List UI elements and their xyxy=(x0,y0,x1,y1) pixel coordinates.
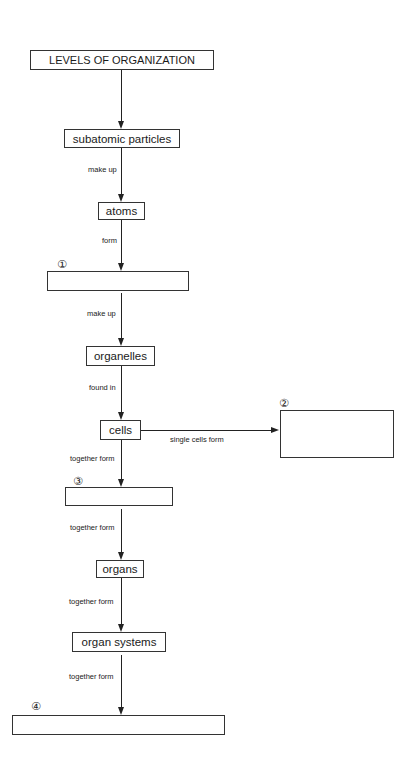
arrow-down-icon xyxy=(118,707,124,715)
node-label: organelles xyxy=(94,350,147,362)
edge-label: found in xyxy=(89,383,116,392)
node-label: cells xyxy=(109,424,132,436)
connector-line xyxy=(121,655,122,708)
arrow-right-icon xyxy=(271,427,279,433)
edge-label: make up xyxy=(88,165,117,174)
answer-box-3[interactable] xyxy=(65,487,173,506)
answer-number-3: ③ xyxy=(73,476,83,487)
arrow-down-icon xyxy=(118,194,124,202)
node-label: organ systems xyxy=(82,636,157,648)
connector-line xyxy=(121,220,122,264)
arrow-down-icon xyxy=(118,338,124,346)
node-organelles: organelles xyxy=(86,346,155,366)
node-label: atoms xyxy=(106,205,137,217)
answer-number-4: ④ xyxy=(31,701,41,712)
node-label: organs xyxy=(102,563,137,575)
node-subatomic-particles: subatomic particles xyxy=(64,129,180,148)
edge-label: together form xyxy=(70,523,115,532)
answer-box-1[interactable] xyxy=(47,271,189,291)
answer-number-2: ② xyxy=(279,398,289,409)
answer-box-4[interactable] xyxy=(12,715,225,735)
connector-line xyxy=(121,148,122,195)
connector-line xyxy=(121,578,122,625)
edge-label: make up xyxy=(87,309,116,318)
edge-label: single cells form xyxy=(170,435,224,444)
connector-line xyxy=(121,366,122,413)
arrow-down-icon xyxy=(118,121,124,129)
node-label: subatomic particles xyxy=(73,133,171,145)
arrow-down-icon xyxy=(118,624,124,632)
edge-label: together form xyxy=(69,672,114,681)
answer-box-2[interactable] xyxy=(280,410,394,458)
answer-number-1: ① xyxy=(57,259,67,270)
node-organ-systems: organ systems xyxy=(72,632,166,652)
title-text: LEVELS OF ORGANIZATION xyxy=(49,54,195,66)
node-atoms: atoms xyxy=(98,202,145,220)
edge-label: together form xyxy=(69,597,114,606)
arrow-down-icon xyxy=(118,412,124,420)
title-box: LEVELS OF ORGANIZATION xyxy=(30,50,214,70)
arrow-down-icon xyxy=(118,479,124,487)
connector-line xyxy=(141,430,272,431)
connector-line xyxy=(121,509,122,553)
node-organs: organs xyxy=(96,560,144,578)
connector-line xyxy=(121,440,122,480)
node-cells: cells xyxy=(100,420,141,440)
connector-line xyxy=(121,293,122,339)
edge-label: form xyxy=(102,236,117,245)
arrow-down-icon xyxy=(118,552,124,560)
connector-line xyxy=(121,70,122,122)
arrow-down-icon xyxy=(118,263,124,271)
edge-label: together form xyxy=(70,454,115,463)
